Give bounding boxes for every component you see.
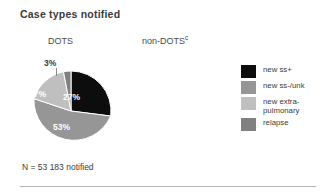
pie-label-relapse: 3% — [44, 58, 56, 68]
legend-label-relapse: relapse — [263, 118, 289, 128]
legend-item-new-ss-plus: new ss+ — [241, 65, 326, 78]
column-heading-dots: DOTS — [48, 36, 73, 46]
column-heading-non-dots-label: non-DOTS — [142, 36, 185, 46]
chart-legend: new ss+ new ss-/unk new extra- pulmonary… — [241, 65, 326, 134]
legend-item-new-ss-unk: new ss-/unk — [241, 81, 326, 94]
column-heading-non-dots-footnote: c — [185, 34, 188, 41]
column-heading-non-dots: non-DOTSc — [142, 36, 188, 46]
pie-chart-dots — [30, 70, 112, 152]
page-title: Case types notified — [20, 8, 120, 20]
legend-label-new-ss-plus: new ss+ — [263, 65, 292, 75]
pie-caption-total: N = 53 183 notified — [22, 162, 94, 172]
legend-swatch-new-ss-unk — [241, 81, 256, 94]
pie-label-leader-line — [56, 68, 57, 76]
legend-label-new-extra-pulmonary: new extra- pulmonary — [263, 97, 299, 115]
legend-swatch-relapse — [241, 118, 256, 131]
footer-divider — [20, 186, 316, 187]
pie-slice-new-ss-plus — [71, 71, 111, 116]
legend-item-new-extra-pulmonary: new extra- pulmonary — [241, 97, 326, 115]
legend-swatch-new-ss-plus — [241, 65, 256, 78]
pie-chart-svg — [30, 70, 112, 152]
legend-label-new-ss-unk: new ss-/unk — [263, 81, 305, 91]
legend-swatch-new-extra-pulmonary — [241, 97, 256, 110]
legend-item-relapse: relapse — [241, 118, 326, 131]
